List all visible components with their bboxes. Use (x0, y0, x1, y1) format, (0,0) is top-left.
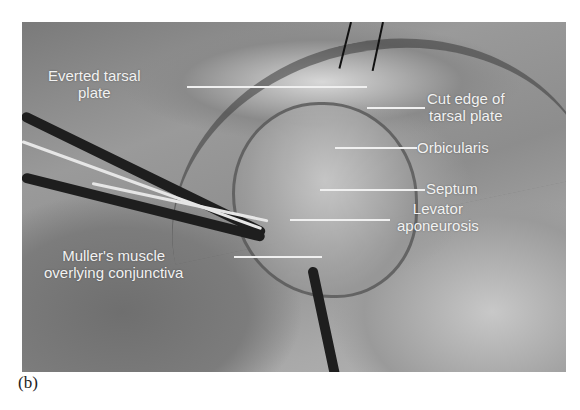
label-mullers-muscle: Muller's muscle overlying conjunctiva (44, 247, 183, 281)
label-septum: Septum (426, 180, 478, 197)
label-levator-aponeurosis: Levator aponeurosis (397, 200, 479, 234)
leader-everted-tarsal-plate (187, 86, 367, 88)
leader-orbicularis (335, 147, 417, 149)
surgical-photo: Everted tarsal plate Cut edge of tarsal … (22, 22, 566, 372)
label-cut-edge-tarsal-plate: Cut edge of tarsal plate (427, 90, 505, 124)
leader-mullers-muscle (234, 256, 322, 258)
leader-septum (320, 189, 425, 191)
label-orbicularis: Orbicularis (417, 139, 489, 156)
label-everted-tarsal-plate: Everted tarsal plate (48, 67, 141, 101)
leader-levator-aponeurosis (290, 219, 390, 221)
panel-label: (b) (18, 373, 38, 393)
leader-cut-edge-tarsal-plate (367, 107, 425, 109)
everted-tissue-region (232, 102, 418, 298)
